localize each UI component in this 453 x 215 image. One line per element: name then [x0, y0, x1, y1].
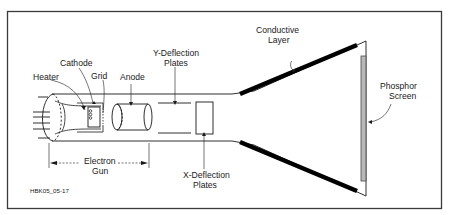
cathode-label: Cathode: [60, 58, 93, 68]
electron-gun-label-2: Gun: [92, 166, 108, 176]
anode-label: Anode: [120, 72, 145, 82]
x-deflection-label-1: X-Deflection: [183, 170, 230, 180]
y-deflection-label-2: Plates: [164, 58, 188, 68]
grid-label: Grid: [91, 71, 107, 81]
heater-coil: [89, 110, 92, 120]
conductive-layer: [240, 45, 357, 191]
tube-base: [42, 94, 61, 141]
y-deflection-plates: [158, 103, 191, 133]
phosphor-screen-label-2: Screen: [389, 91, 416, 101]
phosphor-screen-label-1: Phosphor: [380, 81, 417, 91]
conductive-layer-label-1: Conductive: [256, 25, 299, 35]
figure-id: HBK05_05-17: [30, 187, 69, 194]
y-deflection-label-1: Y-Deflection: [153, 48, 199, 58]
x-deflection-label-2: Plates: [193, 180, 217, 190]
conductive-layer-label-2: Layer: [268, 35, 290, 45]
heater-label: Heater: [33, 72, 59, 82]
x-deflection-plates: [196, 102, 213, 134]
electron-gun-label-1: Electron: [84, 156, 116, 166]
anode: [112, 104, 152, 130]
stem: [55, 101, 101, 134]
pins: [33, 97, 50, 138]
phosphor-screen: [361, 56, 366, 181]
crt-diagram: Heater Cathode Grid Anode Y-Deflection P…: [0, 0, 453, 215]
